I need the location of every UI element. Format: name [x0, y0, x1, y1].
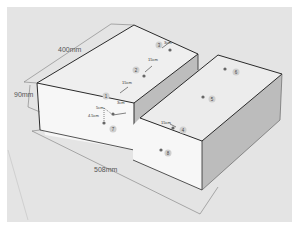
dimension-height: 90mm [14, 91, 34, 98]
dim-15cm-c: 15cm [161, 120, 171, 125]
dim-5cm: 5cm [96, 105, 104, 110]
dim-15cm-b: 15cm [148, 57, 158, 62]
dim-3cm-b: 3cm [117, 100, 125, 105]
dim-4-5cm: 4.5cm [88, 113, 100, 118]
box-diagram: 400mm 90mm 508mm 5cm 15cm 15cm 3cm 3cm 4… [0, 0, 294, 229]
dim-3cm-a: 3cm [164, 40, 172, 45]
dimension-length-bottom: 508mm [94, 166, 118, 173]
dimension-length-top: 400mm [58, 46, 82, 53]
dim-15cm-a: 15cm [122, 80, 132, 85]
